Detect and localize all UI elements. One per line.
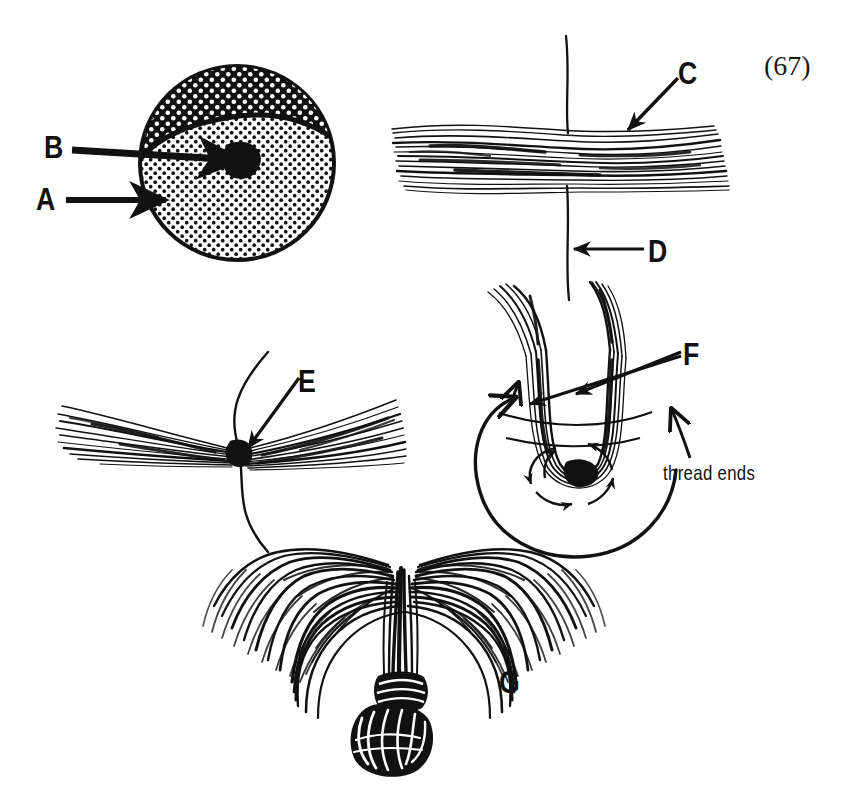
callout-line-f2 [530, 356, 681, 404]
panel-flared-head [203, 549, 605, 777]
callout-label-g: G [499, 667, 520, 698]
callout-label-a: A [36, 184, 55, 215]
thread-ends-leader [672, 410, 690, 458]
flare-left [203, 549, 402, 718]
cinch-thread-up [234, 352, 268, 445]
callout-label-f: F [683, 339, 699, 370]
panel-thread-wrap-loop [475, 282, 690, 557]
callout-label-b: B [44, 132, 63, 163]
figure-number: (67) [764, 52, 811, 80]
panel-stippled-disc [66, 63, 336, 262]
callout-label-thread-ends: thread ends [663, 462, 755, 483]
fiber-wing-left [56, 406, 232, 467]
panel-cinched-bundle [56, 352, 406, 552]
fiber-strands [392, 125, 729, 193]
figure-illustration [0, 0, 852, 811]
callout-label-d: D [648, 236, 667, 267]
knot-ball [351, 703, 434, 777]
callout-label-e: E [298, 366, 316, 397]
thread-lower [567, 186, 569, 300]
thread-upper [566, 36, 568, 133]
figure-plate: A B C D E F G thread ends (67) [0, 0, 852, 811]
fiber-wing-right [246, 400, 406, 470]
callout-label-c: C [678, 58, 697, 89]
loop-base-knot [564, 459, 599, 487]
thread-cross-line-2 [499, 412, 652, 425]
callout-line-c [628, 78, 678, 130]
